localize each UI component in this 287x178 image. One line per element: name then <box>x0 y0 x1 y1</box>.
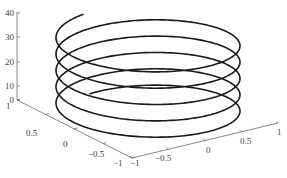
left-axis-tick-label: 0.5 <box>26 128 38 138</box>
left-axis-tick-label: 0 <box>63 139 68 149</box>
right-axis-tick-label: −0.5 <box>155 153 172 163</box>
tick-mark <box>203 139 205 141</box>
z-tick-label: 40 <box>5 8 15 18</box>
tick-mark <box>103 143 106 144</box>
helix-3d-plot: 403020100 10.50−0.5−1 −1−0.500.51 <box>0 0 287 178</box>
figure-caption-cropped <box>60 173 260 178</box>
left-axis-tick-label: 1 <box>6 101 11 111</box>
z-tick-label: 30 <box>5 32 15 42</box>
z-tick-label: 20 <box>5 57 15 67</box>
tick-mark <box>167 147 169 149</box>
right-axis-tick-label: 1 <box>277 127 282 137</box>
right-floor-axis: −1−0.500.51 <box>130 121 282 168</box>
tick-mark <box>276 121 278 123</box>
z-tick-label: 10 <box>5 81 15 91</box>
right-axis-tick-label: 0.5 <box>240 136 252 146</box>
right-axis-tick-label: −1 <box>130 158 140 168</box>
tick-mark <box>75 128 78 129</box>
tick-mark <box>240 130 242 132</box>
z-axis-ticks: 403020100 <box>5 8 20 105</box>
left-axis-tick-label: −1 <box>113 158 123 168</box>
z-axis: 403020100 <box>5 8 20 105</box>
right-floor-axis-ticks: −1−0.500.51 <box>130 121 282 168</box>
helix-curve <box>56 14 240 137</box>
left-axis-tick-label: −0.5 <box>88 149 105 159</box>
tick-mark <box>46 114 49 115</box>
right-axis-tick-label: 0 <box>206 145 211 155</box>
